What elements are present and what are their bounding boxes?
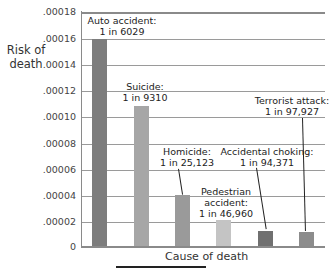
bar-auto-accident (92, 39, 107, 247)
gridline (82, 222, 325, 223)
annotation-label: Auto accident: (86, 15, 158, 26)
annotation-odds: 1 in 6029 (86, 26, 158, 37)
annotation-terrorist-attack: Terrorist attack: 1 in 97,927 (252, 95, 332, 117)
y-tick: .00012 (10, 86, 76, 96)
gridline (82, 12, 325, 14)
y-tick: 0 (10, 242, 76, 252)
annotation-label: accident: (198, 197, 254, 208)
bar-pedestrian-accident (216, 220, 231, 247)
gridline (82, 65, 325, 66)
bar-terrorist-attack (299, 232, 314, 247)
y-tick: .00016 (10, 34, 76, 44)
annotation-label: Homicide: (159, 146, 215, 157)
annotation-pedestrian-accident: Pedestrian accident: 1 in 46,960 (198, 186, 254, 219)
annotation-odds: 1 in 46,960 (198, 208, 254, 219)
annotation-homicide: Homicide: 1 in 25,123 (159, 146, 215, 168)
bar-suicide (134, 106, 149, 247)
gridline (82, 117, 325, 118)
y-tick: .00010 (10, 112, 76, 122)
x-axis-line (82, 246, 325, 248)
leader-line (256, 168, 267, 229)
y-tick: .00006 (10, 165, 76, 175)
annotation-suicide: Suicide: 1 in 9310 (118, 81, 172, 103)
annotation-odds: 1 in 94,371 (213, 157, 321, 168)
leader-line (302, 118, 306, 231)
gridline (82, 170, 325, 171)
annotation-label: Suicide: (118, 81, 172, 92)
annotation-odds: 1 in 97,927 (252, 106, 332, 117)
bar-accidental-choking (258, 231, 273, 247)
x-axis-title: Cause of death (165, 250, 248, 263)
gridline (82, 39, 325, 40)
annotation-label: Accidental choking: (213, 146, 321, 157)
y-axis-line (81, 11, 82, 248)
y-tick: .00008 (10, 139, 76, 149)
y-tick: .00004 (10, 191, 76, 201)
bar-homicide (175, 195, 190, 247)
divider-rule (116, 266, 206, 268)
y-tick: .00014 (10, 60, 76, 70)
y-tick: .00002 (10, 217, 76, 227)
annotation-auto-accident: Auto accident: 1 in 6029 (86, 15, 158, 37)
annotation-label: Pedestrian (198, 186, 254, 197)
gridline (82, 144, 325, 145)
annotation-odds: 1 in 9310 (118, 92, 172, 103)
y-tick: .00018 (10, 7, 76, 17)
annotation-label: Terrorist attack: (252, 95, 332, 106)
leader-line (178, 169, 183, 195)
y-axis-title-line1: Risk of (6, 43, 46, 57)
annotation-accidental-choking: Accidental choking: 1 in 94,371 (213, 146, 321, 168)
annotation-odds: 1 in 25,123 (159, 157, 215, 168)
